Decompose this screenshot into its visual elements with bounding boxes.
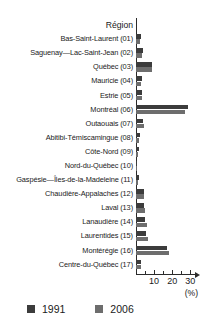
bar-1991 [136,48,143,53]
bar-group [136,244,204,258]
bar-1991 [136,217,145,222]
bar-2006 [136,152,138,157]
value-tick-label: 30 [185,276,195,287]
bar-2006 [136,166,137,171]
bar-2006 [136,180,138,185]
bar-2006 [136,237,148,242]
caption-remnant [6,0,156,5]
category-label: Bas-Saint-Laurent (01) [0,35,136,43]
category-label: Saguenay—Lac-Saint-Jean (02) [0,49,136,57]
legend-label-1991: 1991 [42,303,65,315]
chart-row: Centre-du-Québec (17) [0,258,204,272]
category-label: Montréal (06) [0,106,136,114]
chart-row: Gaspésie—Îles-de-la-Madeleine (11) [0,173,204,187]
minor-tick [163,271,164,276]
legend-swatch-2006 [95,305,103,313]
axis-header-row: Région [0,18,204,32]
bar-2006 [136,67,152,72]
legend: 1991 2006 [0,300,204,318]
value-tick-label: 20 [167,276,177,287]
chart-row: Montréal (06) [0,103,204,117]
chart-row: Nord-du-Québec (10) [0,159,204,173]
chart-row: Québec (03) [0,60,204,74]
value-tick-label: 10 [149,276,159,287]
bar-group [136,74,204,88]
bar-1991 [136,175,139,180]
legend-label-2006: 2006 [110,303,133,315]
category-label: Mauricie (04) [0,77,136,85]
chart-row: Bas-Saint-Laurent (01) [0,32,204,46]
category-label: Abitibi-Témiscamingue (08) [0,134,136,142]
bar-group [136,201,204,215]
bar-group [136,187,204,201]
category-label: Centre-du-Québec (17) [0,261,136,269]
chart-row: Montérégie (16) [0,244,204,258]
plot-area: Région Bas-Saint-Laurent (01)Saguenay—La… [0,18,204,288]
major-tick [154,270,155,276]
bar-group [136,173,204,187]
chart-row: Abitibi-Témiscamingue (08) [0,131,204,145]
bar-1991 [136,246,167,251]
legend-item-1991[interactable]: 1991 [27,303,65,315]
legend-item-2006[interactable]: 2006 [95,303,133,315]
bar-1991 [136,203,144,208]
minor-tick [181,271,182,276]
bar-group [136,258,204,272]
bar-group [136,46,204,60]
chart-row: Saguenay—Lac-Saint-Jean (02) [0,46,204,60]
bar-group [136,88,204,102]
chart-row: Outaouais (07) [0,117,204,131]
value-axis-unit: (%) [185,288,198,298]
bar-1991 [136,260,141,265]
bar-1991 [136,34,141,39]
bar-2006 [136,265,141,270]
bar-2006 [136,208,145,213]
bar-group [136,215,204,229]
category-label: Gaspésie—Îles-de-la-Madeleine (11) [0,176,136,184]
bar-2006 [136,251,169,256]
category-label: Estrie (05) [0,92,136,100]
bar-2006 [136,39,140,44]
bar-group [136,229,204,243]
bar-1991 [136,133,140,138]
bar-1991 [136,189,144,194]
minor-tick [145,271,146,276]
category-label: Laurentides (15) [0,232,136,240]
chart-row: Laval (13) [0,201,204,215]
category-label: Montérégie (16) [0,247,136,255]
bar-1991 [136,90,142,95]
bar-group [136,32,204,46]
category-label: Québec (03) [0,63,136,71]
major-tick [190,270,191,276]
bar-1991 [136,119,143,124]
bar-1991 [136,231,146,236]
bar-2006 [136,82,141,87]
bar-group [136,103,204,117]
category-label: Laval (13) [0,204,136,212]
bar-2006 [136,194,144,199]
value-axis-tick-labels: 102030 [0,276,204,288]
bar-1991 [136,161,137,166]
chart-row: Côte-Nord (09) [0,145,204,159]
chart-row: Lanaudière (14) [0,215,204,229]
category-label: Outaouais (07) [0,120,136,128]
chart-row: Chaudière-Appalaches (12) [0,187,204,201]
bar-2006 [136,124,144,129]
bar-2006 [136,96,142,101]
chart-row: Estrie (05) [0,88,204,102]
bar-1991 [136,147,139,152]
bar-2006 [136,53,142,58]
bar-group [136,60,204,74]
bar-2006 [136,110,185,115]
legend-swatch-1991 [27,305,35,313]
category-label: Nord-du-Québec (10) [0,162,136,170]
bar-1991 [136,62,152,67]
chart-rows: Région Bas-Saint-Laurent (01)Saguenay—La… [0,18,204,272]
figure-bar-chart-region: Région Bas-Saint-Laurent (01)Saguenay—La… [0,0,204,325]
bar-group [136,159,204,173]
chart-row: Laurentides (15) [0,229,204,243]
header-bars-spacer [136,18,204,32]
bar-1991 [136,105,188,110]
bar-2006 [136,223,147,228]
category-label: Côte-Nord (09) [0,148,136,156]
